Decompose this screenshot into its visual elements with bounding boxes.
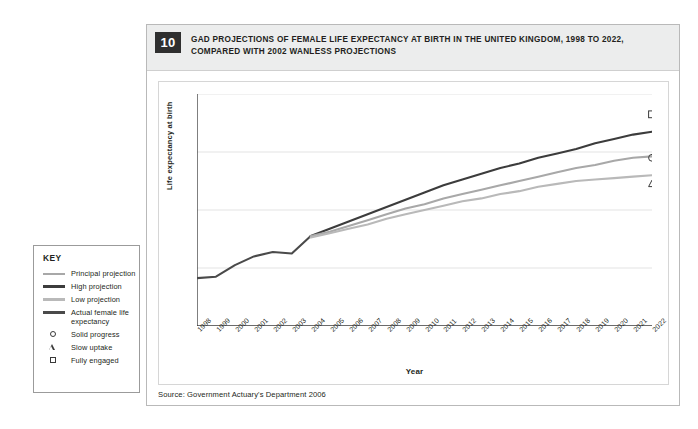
legend-item-label: High projection bbox=[71, 282, 122, 291]
legend-marker-swatch bbox=[43, 330, 65, 339]
plot-area: 7880828486 bbox=[197, 94, 652, 326]
x-axis-label: Year bbox=[159, 367, 670, 376]
legend-item: Slow uptake bbox=[43, 343, 139, 352]
legend-item-label: Low projection bbox=[71, 295, 120, 304]
figure-title: GAD PROJECTIONS OF FEMALE LIFE EXPECTANC… bbox=[191, 32, 669, 58]
x-axis-tick-label: 2022 bbox=[651, 317, 667, 333]
series-line bbox=[311, 156, 652, 236]
legend-marker-swatch bbox=[43, 343, 65, 352]
x-axis-ticks: 1998199920002001200220032004200520062007… bbox=[197, 328, 652, 368]
legend-item: High projection bbox=[43, 282, 139, 291]
legend-title: KEY bbox=[43, 253, 139, 263]
legend-item: Principal projection bbox=[43, 269, 139, 278]
source-note: Source: Government Actuary's Department … bbox=[158, 390, 669, 406]
legend-key-box: KEY Principal projectionHigh projectionL… bbox=[33, 245, 140, 393]
y-axis-label: Life expectancy at birth bbox=[165, 178, 174, 190]
triangle-marker bbox=[649, 180, 652, 186]
square-marker bbox=[649, 111, 652, 118]
legend-item-label: Actual female life expectancy bbox=[71, 308, 139, 327]
series-line bbox=[311, 175, 652, 237]
legend-items: Principal projectionHigh projectionLow p… bbox=[43, 269, 139, 365]
legend-item-label: Fully engaged bbox=[71, 356, 119, 365]
circle-icon bbox=[50, 331, 56, 337]
figure-number-badge: 10 bbox=[155, 32, 181, 53]
legend-line-swatch bbox=[43, 308, 65, 317]
triangle-icon bbox=[49, 344, 55, 350]
square-icon bbox=[50, 357, 56, 363]
figure-header: 10 GAD PROJECTIONS OF FEMALE LIFE EXPECT… bbox=[147, 25, 679, 71]
legend-item-label: Principal projection bbox=[71, 269, 135, 278]
legend-line-swatch bbox=[43, 282, 65, 291]
legend-item: Actual female life expectancy bbox=[43, 308, 139, 327]
legend-item-label: Solid progress bbox=[71, 330, 120, 339]
legend-line-swatch bbox=[43, 269, 65, 278]
figure-panel: 10 GAD PROJECTIONS OF FEMALE LIFE EXPECT… bbox=[146, 24, 680, 406]
legend-item: Low projection bbox=[43, 295, 139, 304]
series-line bbox=[311, 132, 652, 236]
legend-item: Fully engaged bbox=[43, 356, 139, 365]
legend-marker-swatch bbox=[43, 356, 65, 365]
legend-item-label: Slow uptake bbox=[71, 343, 112, 352]
legend-line-swatch bbox=[43, 295, 65, 304]
legend-item: Solid progress bbox=[43, 330, 139, 339]
chart-svg: 7880828486 bbox=[197, 94, 652, 326]
series-line bbox=[197, 236, 311, 278]
plot-card: Life expectancy at birth 7880828486 1998… bbox=[158, 81, 669, 385]
